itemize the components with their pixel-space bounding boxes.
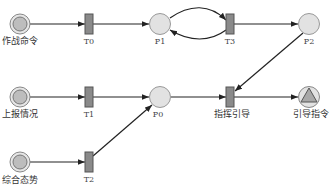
label-T2: T2 [84,175,94,185]
label-T3: T3 [225,37,235,47]
label-T0: T0 [84,37,94,47]
arc-P2-Tg[interactable] [235,33,303,91]
transition-T0[interactable] [85,14,93,34]
arc-P1-T3-upper[interactable] [170,8,226,20]
place-P1[interactable] [150,14,171,35]
label-P1: P1 [155,37,165,47]
label-P0: P0 [153,110,163,120]
place-P2[interactable] [299,14,320,35]
place-zuozhan-mingling[interactable] [10,14,30,34]
place-P0[interactable] [150,87,171,108]
label-yindao-zhiling: 引导指令 [293,109,329,119]
transition-T2[interactable] [85,152,93,172]
label-P2: P2 [304,37,314,47]
label-zonghe-taishi: 综合态势 [2,175,38,185]
place-zonghe-taishi[interactable] [10,152,30,172]
label-shangbao-qingkuang: 上报情况 [2,109,38,119]
transition-zhihui-yindao[interactable] [226,87,234,107]
label-T1: T1 [84,110,94,120]
transition-T1[interactable] [85,87,93,107]
place-shangbao-qingkuang[interactable] [10,87,30,107]
arc-T2-P0[interactable] [93,105,152,156]
label-zuozhan-mingling: 作战命令 [2,36,38,46]
arc-T3-P1-lower[interactable] [170,30,226,39]
petri-net-canvas [0,0,335,193]
transition-T3[interactable] [226,14,234,34]
place-yindao-zhiling[interactable] [299,87,320,108]
label-zhihui-yindao: 指挥引导 [214,109,250,119]
